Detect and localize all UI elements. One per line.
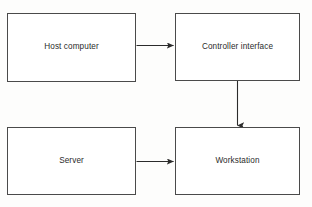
node-controller-interface-label: Controller interface (202, 43, 273, 51)
node-server-label: Server (59, 157, 84, 165)
diagram-canvas: Host computer Controller interface Serve… (0, 0, 312, 207)
node-workstation-label: Workstation (215, 157, 259, 165)
node-server: Server (7, 127, 136, 195)
node-host-computer: Host computer (7, 13, 136, 82)
node-controller-interface: Controller interface (175, 13, 300, 81)
node-host-computer-label: Host computer (44, 43, 99, 51)
node-workstation: Workstation (175, 127, 300, 195)
